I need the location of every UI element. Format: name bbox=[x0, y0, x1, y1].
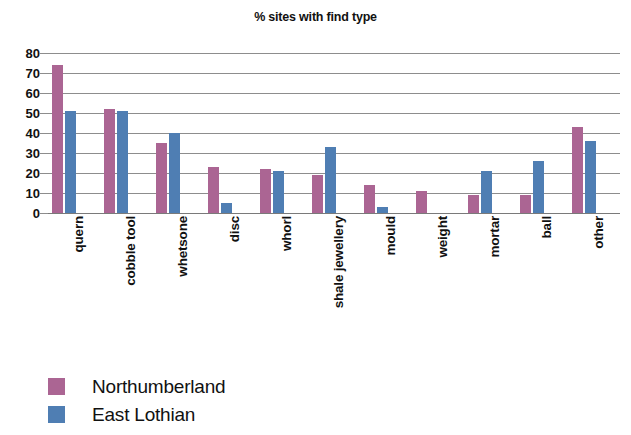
legend-color-swatch bbox=[48, 378, 65, 395]
y-tick-mark bbox=[39, 113, 48, 114]
y-tick-mark bbox=[39, 213, 48, 214]
y-tick-mark bbox=[39, 133, 48, 134]
bar bbox=[208, 167, 219, 213]
bar bbox=[169, 133, 180, 213]
bar bbox=[572, 127, 583, 213]
y-tick-label: 60 bbox=[0, 87, 40, 100]
y-tick-label: 30 bbox=[0, 147, 40, 160]
y-tick-label: 70 bbox=[0, 67, 40, 80]
bar bbox=[52, 65, 63, 213]
y-tick-label: 40 bbox=[0, 127, 40, 140]
x-tick-label: other bbox=[591, 216, 606, 249]
legend-item: East Lothian bbox=[48, 400, 225, 428]
y-tick-label: 20 bbox=[0, 167, 40, 180]
bar bbox=[325, 147, 336, 213]
y-tick-label: 10 bbox=[0, 187, 40, 200]
bar bbox=[364, 185, 375, 213]
x-tick-label: mortar bbox=[487, 216, 502, 258]
x-tick-label: whorl bbox=[279, 216, 294, 251]
legend-item: Northumberland bbox=[48, 372, 225, 400]
bar bbox=[585, 141, 596, 213]
bar bbox=[156, 143, 167, 213]
bar bbox=[65, 111, 76, 213]
x-tick-label: mould bbox=[383, 216, 398, 256]
x-tick-label: whetsone bbox=[175, 216, 190, 277]
bar bbox=[468, 195, 479, 213]
x-tick-label: shale jewellery bbox=[331, 216, 346, 308]
bars-layer bbox=[48, 53, 620, 213]
y-tick-mark bbox=[39, 173, 48, 174]
bar bbox=[260, 169, 271, 213]
x-tick-label: disc bbox=[227, 216, 242, 242]
y-tick-mark bbox=[39, 53, 48, 54]
bar bbox=[481, 171, 492, 213]
y-tick-mark bbox=[39, 93, 48, 94]
bar bbox=[520, 195, 531, 213]
legend-label: Northumberland bbox=[92, 377, 225, 396]
y-tick-label: 50 bbox=[0, 107, 40, 120]
x-axis: querncobble toolwhetsonediscwhorlshale j… bbox=[48, 216, 620, 336]
chart-title: % sites with find type bbox=[0, 10, 631, 24]
legend-label: East Lothian bbox=[92, 405, 195, 424]
y-tick-mark bbox=[39, 193, 48, 194]
bar bbox=[273, 171, 284, 213]
legend-color-swatch bbox=[48, 406, 65, 423]
x-tick-label: weight bbox=[435, 216, 450, 258]
axis-baseline bbox=[48, 213, 620, 214]
x-tick-label: ball bbox=[539, 216, 554, 238]
bar bbox=[416, 191, 427, 213]
bar bbox=[117, 111, 128, 213]
y-tick-label: 80 bbox=[0, 47, 40, 60]
bar bbox=[377, 207, 388, 213]
y-tick-mark bbox=[39, 153, 48, 154]
bar bbox=[221, 203, 232, 213]
chart-legend: NorthumberlandEast Lothian bbox=[48, 372, 225, 428]
x-tick-label: cobble tool bbox=[123, 216, 138, 286]
y-tick-label: 0 bbox=[0, 207, 40, 220]
x-tick-label: quern bbox=[71, 216, 86, 253]
bar bbox=[104, 109, 115, 213]
bar bbox=[312, 175, 323, 213]
y-axis: 80706050403020100 bbox=[0, 53, 40, 213]
bar bbox=[533, 161, 544, 213]
y-tick-mark bbox=[39, 73, 48, 74]
